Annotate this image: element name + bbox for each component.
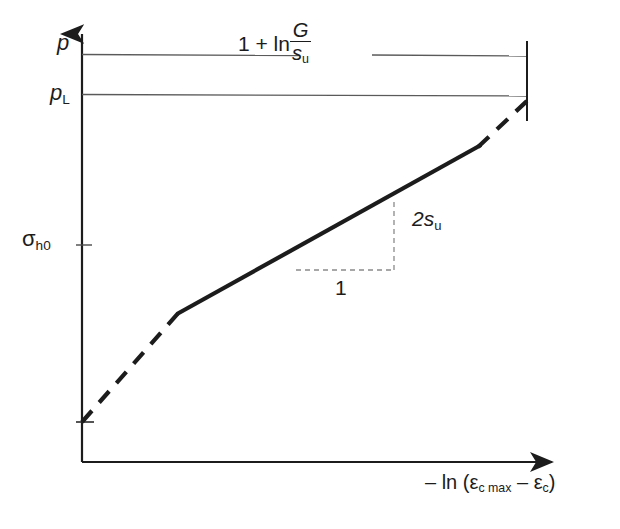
slope-rise-sub: u <box>434 218 441 233</box>
y-axis-label-pL: pL <box>50 82 70 106</box>
x-axis-label: – ln (εc max – εc) <box>425 472 555 495</box>
y-axis-label-p: p <box>57 32 69 54</box>
formula-denominator-main: s <box>292 42 302 64</box>
pL-level-line <box>82 95 527 97</box>
formula-denominator: su <box>290 42 311 66</box>
span-annotation-formula: 1 + lnGsu <box>238 20 311 66</box>
p-level-line-right <box>372 55 527 56</box>
curve-lower-dashed <box>82 311 180 422</box>
x-axis-label-minus: – <box>517 471 528 493</box>
formula-numerator: G <box>290 20 311 42</box>
y-axis-label-sigma-main: σ <box>22 226 36 251</box>
slope-rise-main: 2s <box>412 207 434 230</box>
x-axis-label-eps1-sub: c max <box>478 481 511 495</box>
slope-run-label: 1 <box>335 277 347 298</box>
formula-fraction: Gsu <box>290 20 311 66</box>
x-axis-label-prefix: – ln ( <box>425 471 469 493</box>
line-chart-svg <box>0 0 620 529</box>
curve-upper-dashed <box>478 100 528 147</box>
y-axis-label-sigma-sub: h0 <box>36 238 51 253</box>
x-axis-label-suffix: ) <box>549 471 556 493</box>
figure-canvas: p pL σh0 1 + lnGsu 2su 1 – ln (εc max – … <box>0 0 620 529</box>
y-axis-label-pL-main: p <box>50 80 62 105</box>
slope-rise-label: 2su <box>412 208 441 232</box>
y-axis-label-p-text: p <box>57 30 69 55</box>
y-axis-label-pL-sub: L <box>62 92 70 107</box>
formula-denominator-sub: u <box>302 53 309 67</box>
formula-prefix: 1 + ln <box>238 32 290 55</box>
x-axis-label-eps2: ε <box>534 471 543 493</box>
y-axis-label-sigma-h0: σh0 <box>22 228 51 252</box>
